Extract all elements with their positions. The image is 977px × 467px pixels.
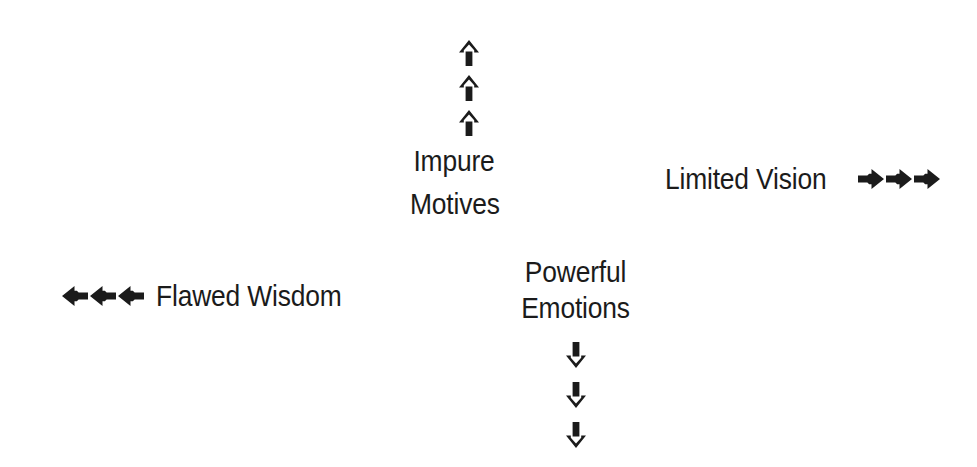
down-arrow-icon [565, 422, 587, 448]
label-flawed-wisdom: Flawed Wisdom [156, 278, 342, 314]
left-arrow-row [62, 285, 144, 307]
up-arrow-icon [458, 75, 480, 101]
arrow-group-flawed-wisdom: Flawed Wisdom [62, 278, 367, 314]
arrow-group-limited-vision: Limited Vision [665, 161, 940, 197]
label-powerful-emotions-line1: Powerful [521, 254, 631, 290]
up-arrow-stack [434, 40, 504, 136]
right-arrow-row [858, 168, 940, 190]
right-arrow-icon [858, 168, 884, 190]
label-impure-motives-line2: Motives [410, 186, 498, 222]
down-arrow-icon [565, 382, 587, 408]
up-arrow-icon [458, 110, 480, 136]
arrow-group-powerful-emotions: Powerful Emotions [513, 254, 638, 448]
label-impure-motives-line1: Impure [410, 143, 498, 179]
down-arrow-stack [513, 342, 638, 448]
right-arrow-icon [914, 168, 940, 190]
left-arrow-icon [62, 285, 88, 307]
left-arrow-icon [118, 285, 144, 307]
left-arrow-icon [90, 285, 116, 307]
down-arrow-icon [565, 342, 587, 368]
up-arrow-icon [458, 40, 480, 66]
label-limited-vision: Limited Vision [665, 161, 826, 197]
diagram-canvas: Impure Motives Limited Vision [0, 0, 977, 467]
label-powerful-emotions-line2: Emotions [521, 290, 631, 326]
right-arrow-icon [886, 168, 912, 190]
arrow-group-impure-motives: Impure Motives [404, 40, 504, 222]
